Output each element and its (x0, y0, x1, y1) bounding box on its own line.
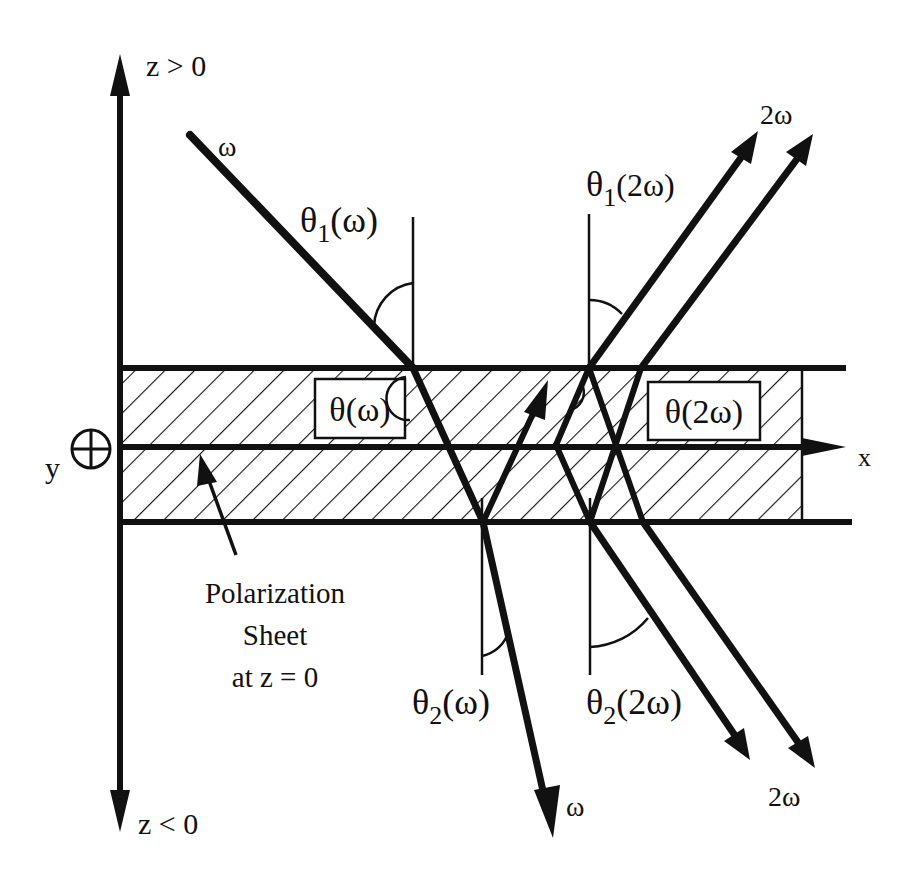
incident-omega-label: ω (218, 131, 236, 162)
z-positive-label: z > 0 (146, 49, 206, 82)
theta-omega-box-label: θ(ω) (329, 391, 390, 429)
svg-text:θ2(2ω): θ2(2ω) (586, 682, 682, 730)
svg-text:at z = 0: at z = 0 (232, 661, 318, 693)
reflected-2omega-arrowhead-right-icon (786, 134, 813, 166)
transmitted-omega-label: ω (566, 791, 584, 822)
z-axis-up-arrowhead-icon (110, 54, 130, 96)
reflected-2omega-label: 2ω (760, 99, 792, 130)
transmitted-2omega-arrowhead-left-icon (724, 728, 750, 760)
transmitted-2omega-arrowhead-right-icon (788, 736, 815, 768)
svg-text:Polarization: Polarization (205, 577, 346, 609)
x-axis-arrowhead-icon (802, 438, 846, 456)
svg-text:θ2(ω): θ2(ω) (412, 682, 490, 730)
theta2-2omega-label: θ2(2ω) (586, 682, 682, 730)
incident-omega-beam (190, 135, 413, 368)
y-axis-label: y (45, 451, 60, 484)
z-axis-down-arrowhead-icon (110, 790, 130, 832)
z-negative-label: z < 0 (138, 807, 198, 840)
theta-2omega-box: θ(2ω) (648, 382, 760, 440)
svg-text:Sheet: Sheet (243, 619, 307, 651)
theta-omega-box: θ(ω) (315, 379, 405, 438)
x-axis-label: x (858, 443, 871, 472)
theta-2omega-box-label: θ(2ω) (665, 393, 743, 431)
transmitted-2omega-beams (590, 522, 815, 768)
theta1-omega-label: θ1(ω) (300, 200, 378, 248)
sheet-label: Polarization Sheet at z = 0 (205, 577, 346, 693)
theta2-omega-label: θ2(ω) (412, 682, 490, 730)
transmitted-omega-arrowhead-icon (534, 785, 560, 838)
svg-text:θ1(ω): θ1(ω) (300, 200, 378, 248)
theta1-2omega-label: θ1(2ω) (586, 164, 675, 212)
svg-text:θ1(2ω): θ1(2ω) (586, 164, 675, 212)
y-axis-into-page-icon (72, 430, 110, 468)
transmitted-2omega-label: 2ω (768, 781, 800, 812)
reflected-2omega-arrowhead-left-icon (731, 131, 758, 164)
sheet-diagram: θ(ω) θ(2ω) x z > 0 z < 0 y (0, 0, 916, 885)
